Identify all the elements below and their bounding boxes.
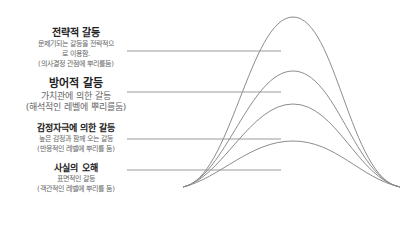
level-title: 전략적 갈등 xyxy=(0,26,152,39)
level-title: 방어적 갈등 xyxy=(0,77,152,91)
level-desc: (반응적인 레벨에 뿌리를 둠) xyxy=(0,144,152,154)
level-desc: (의사결정 관점에 뿌리를둠) xyxy=(0,59,152,70)
level-desc: 가치관에 의한 갈등 xyxy=(0,91,152,102)
level-desc: 로 이용함. xyxy=(0,49,152,59)
level-title: 감정자극에 의한 갈등 xyxy=(0,122,152,134)
level-emotional: 감정자극에 의한 갈등 높은 감정과 함께 오는 갈등 (반응적인 레벨에 뿌리… xyxy=(0,122,152,154)
bell-curve-emotional xyxy=(183,104,400,187)
level-defensive: 방어적 갈등 가치관에 의한 갈등 (해석적인 레벨에 뿌리를둠) xyxy=(0,77,152,113)
level-factual: 사실의 오해 표면적인 갈등 (객관적인 레벨에 뿌리를 둠) xyxy=(0,162,152,194)
level-desc: 높은 감정과 함께 오는 갈등 xyxy=(0,134,152,144)
level-desc: 문제기되는 갈등을 전략적으 xyxy=(0,39,152,49)
level-desc: (해석적인 레벨에 뿌리를둠) xyxy=(0,102,152,113)
level-strategic: 전략적 갈등 문제기되는 갈등을 전략적으 로 이용함. (의사결정 관점에 뿌… xyxy=(0,26,152,70)
level-title: 사실의 오해 xyxy=(0,162,152,174)
level-desc: 표면적인 갈등 xyxy=(0,174,152,184)
bell-curve-factual xyxy=(183,141,400,187)
level-desc: (객관적인 레벨에 뿌리를 둠) xyxy=(0,184,152,194)
